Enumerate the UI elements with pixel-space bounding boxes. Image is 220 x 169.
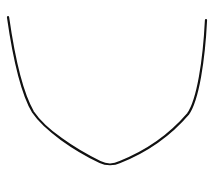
curve-drawing <box>0 0 220 169</box>
u-curve-stroke <box>8 17 206 164</box>
drawing-canvas <box>0 0 220 169</box>
